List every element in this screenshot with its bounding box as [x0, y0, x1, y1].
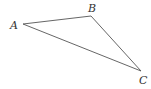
vertex-label-c: C	[139, 74, 148, 87]
vertex-label-a: A	[9, 19, 18, 32]
triangle-diagram: A B C	[0, 0, 151, 89]
triangle-abc	[23, 16, 141, 71]
vertex-label-b: B	[87, 2, 96, 15]
